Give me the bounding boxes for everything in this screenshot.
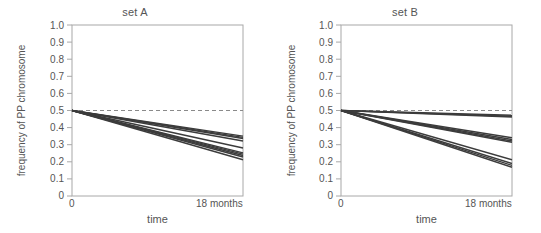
ytick-label: 0.5 (319, 105, 333, 116)
ytick-label: 0.9 (50, 37, 64, 48)
panel-a-y-tick-labels: 1.0 0.9 0.8 0.7 0.6 0.5 0.4 0.3 0.2 0.1 … (50, 20, 64, 201)
ytick-label: 0.5 (50, 105, 64, 116)
panel-b-y-ticks (336, 25, 341, 196)
ytick-label: 1.0 (319, 20, 333, 31)
ytick-label: 0.6 (319, 88, 333, 99)
ytick-label: 0.1 (319, 173, 333, 184)
ytick-label: 0.9 (319, 37, 333, 48)
ytick-label: 0.3 (50, 139, 64, 150)
ytick-label: 0.4 (319, 122, 333, 133)
panel-b-xtick-end: 18 months (465, 198, 512, 209)
ytick-label: 0.8 (50, 54, 64, 65)
panel-a-x-axis-label: time (72, 213, 243, 225)
ytick-label: 0.1 (50, 173, 64, 184)
ytick-label: 0.7 (319, 71, 333, 82)
ytick-label: 0.8 (319, 54, 333, 65)
panel-set-b: set B frequency of PP chromosome (270, 0, 540, 233)
panel-a-xtick-end: 18 months (196, 198, 243, 209)
ytick-label: 0.7 (50, 71, 64, 82)
ytick-label: 0 (58, 190, 64, 201)
figure-two-panel-line-charts: set A frequency of PP chromosome (0, 0, 541, 233)
panel-a-xtick-start: 0 (69, 198, 75, 209)
ytick-label: 0.6 (50, 88, 64, 99)
panel-b-x-axis-label: time (341, 213, 512, 225)
ytick-label: 0.2 (319, 156, 333, 167)
ytick-label: 0.2 (50, 156, 64, 167)
ytick-label: 0 (327, 190, 333, 201)
panel-set-a: set A frequency of PP chromosome (0, 0, 270, 233)
ytick-label: 1.0 (50, 20, 64, 31)
ytick-label: 0.4 (50, 122, 64, 133)
panel-b-xtick-start: 0 (338, 198, 344, 209)
panel-b-y-tick-labels: 1.0 0.9 0.8 0.7 0.6 0.5 0.4 0.3 0.2 0.1 … (319, 20, 333, 201)
panel-a-y-ticks (67, 25, 72, 196)
ytick-label: 0.3 (319, 139, 333, 150)
